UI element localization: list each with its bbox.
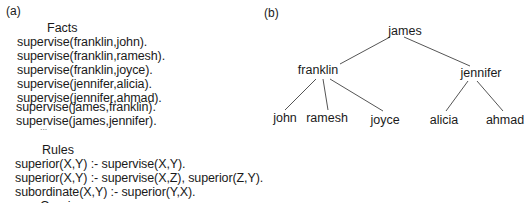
tree-node-joyce: joyce — [370, 113, 399, 127]
edge-franklin-joyce — [330, 79, 383, 111]
edge-jennifer-ahmad — [477, 81, 503, 111]
tree-node-ahmad: ahmad — [486, 113, 524, 127]
edge-franklin-ramesh — [323, 79, 328, 110]
tree-node-ramesh: ramesh — [306, 111, 348, 125]
tree-node-alicia: alicia — [430, 113, 459, 127]
tree-edges — [0, 0, 530, 203]
tree-node-jennifer: jennifer — [461, 66, 502, 80]
edge-jennifer-alicia — [446, 81, 468, 111]
tree-node-franklin: franklin — [298, 63, 338, 77]
edge-franklin-john — [285, 79, 316, 110]
tree-node-james: james — [388, 24, 421, 38]
edge-james-jennifer — [404, 37, 470, 66]
edge-james-franklin — [340, 37, 390, 64]
tree-node-john: john — [273, 111, 297, 125]
